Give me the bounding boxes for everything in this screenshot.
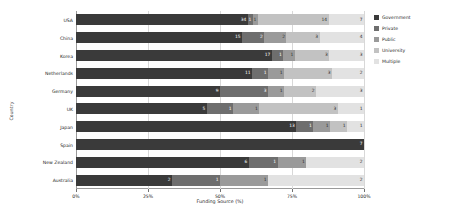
bar-segment-value: 7 [360, 18, 364, 22]
bar-segment: 3 [316, 86, 364, 97]
legend-label: Public [382, 37, 396, 42]
bar-segment: 3 [259, 103, 338, 114]
y-axis-tick-uk: UK [67, 106, 73, 111]
legend-label: Private [382, 26, 398, 31]
gridline [364, 11, 365, 189]
bar-segment-value: 34 [241, 18, 248, 22]
legend-label: Government [382, 15, 411, 20]
bar-segment: 2 [284, 86, 316, 97]
x-axis-tickmark [220, 189, 221, 192]
bar-segment-value: 15 [235, 35, 242, 39]
bar-segment: 9 [76, 86, 220, 97]
legend-swatch-icon [374, 26, 379, 31]
bar-row: 2112 [76, 175, 364, 186]
legend-swatch-icon [374, 59, 379, 64]
bar-segment: 7 [76, 139, 364, 150]
bar-row: 131111 [76, 121, 364, 132]
y-axis-tick-usa: USA [63, 17, 73, 22]
bar-row: 171133 [76, 50, 364, 61]
bar-segment: 4 [320, 32, 364, 43]
bar-segment-value: 4 [360, 35, 364, 39]
bar-segment: 14 [258, 14, 329, 25]
bar-segment: 1 [249, 157, 278, 168]
bar-segment: 17 [76, 50, 272, 61]
x-axis-tickmark [76, 189, 77, 192]
bar-segment: 1 [338, 103, 364, 114]
bar-segment: 1 [220, 175, 268, 186]
y-axis-tick-japan: Japan [60, 124, 73, 129]
legend-item-multiple[interactable]: Multiple [374, 56, 454, 67]
y-axis-tick-korea: Korea [60, 53, 73, 58]
bar-segment: 1 [233, 103, 259, 114]
y-axis-tick-new-zealand: New Zealand [43, 160, 73, 165]
bar-segment: 1 [272, 50, 284, 61]
bar-segment: 7 [329, 14, 364, 25]
bar-segment: 1 [330, 121, 347, 132]
bar-segment: 2 [268, 175, 364, 186]
y-axis-tick-australia: Australia [53, 178, 73, 183]
legend-item-government[interactable]: Government [374, 12, 454, 23]
bar-segment: 1 [268, 86, 284, 97]
bar-segment: 2 [306, 157, 364, 168]
bar-segment: 1 [278, 157, 307, 168]
bar-segment: 2 [332, 68, 364, 79]
bar-segment-value: 14 [322, 18, 329, 22]
y-axis-tick-germany: Germany [52, 89, 73, 94]
legend: GovernmentPrivatePublicUniversityMultipl… [374, 12, 454, 67]
bar-segment-value: 11 [245, 71, 252, 75]
bar-segment: 13 [76, 121, 296, 132]
legend-item-university[interactable]: University [374, 45, 454, 56]
bar-segment: 5 [76, 103, 207, 114]
bar-segment: 1 [268, 68, 284, 79]
y-axis-tick-spain: Spain [60, 142, 73, 147]
bar-segment: 2 [76, 175, 172, 186]
bar-segment-value: 17 [265, 53, 272, 57]
bar-segment: 3 [295, 50, 330, 61]
bar-segment-value: 2 [360, 71, 364, 75]
legend-item-public[interactable]: Public [374, 34, 454, 45]
bar-row: 3411147 [76, 14, 364, 25]
bar-segment: 1 [207, 103, 233, 114]
bar-segment-value: 13 [289, 124, 296, 128]
bar-row: 152234 [76, 32, 364, 43]
bar-segment-value: 2 [360, 178, 364, 182]
legend-label: Multiple [382, 59, 400, 64]
plot-area: 3411147152234171133111132931235113113111… [76, 11, 364, 189]
bar-segment: 2 [242, 32, 264, 43]
bar-segment-value: 1 [360, 124, 364, 128]
stacked-bar-chart: Country USAChinaKoreaNetherlandsGermanyU… [0, 0, 458, 221]
bar-segment-value: 1 [360, 107, 364, 111]
bar-segment-value: 3 [360, 89, 364, 93]
bar-row: 111132 [76, 68, 364, 79]
bar-segment: 3 [220, 86, 268, 97]
bar-segment: 3 [329, 50, 364, 61]
bar-row: 6112 [76, 157, 364, 168]
bar-segment: 34 [76, 14, 248, 25]
bar-segment: 2 [264, 32, 286, 43]
x-axis-tickmark [148, 189, 149, 192]
bar-segment: 1 [313, 121, 330, 132]
bar-row: 51131 [76, 103, 364, 114]
y-axis-tick-china: China [60, 35, 73, 40]
x-axis-tickmark [364, 189, 365, 192]
bar-segment: 11 [76, 68, 252, 79]
bar-segment: 3 [284, 68, 332, 79]
bar-row: 7 [76, 139, 364, 150]
bar-row: 93123 [76, 86, 364, 97]
bar-segment: 1 [172, 175, 220, 186]
bar-segment-value: 2 [360, 160, 364, 164]
bar-segment: 6 [76, 157, 249, 168]
y-axis-tick-labels: USAChinaKoreaNetherlandsGermanyUKJapanSp… [8, 11, 73, 189]
bar-segment: 1 [347, 121, 364, 132]
y-axis-tick-netherlands: Netherlands [45, 71, 73, 76]
bar-segment-value: 3 [360, 53, 364, 57]
x-axis-tickmark [292, 189, 293, 192]
bar-segment: 15 [76, 32, 242, 43]
x-axis-title: Funding Source (%) [76, 199, 364, 204]
bar-segment: 1 [283, 50, 295, 61]
legend-item-private[interactable]: Private [374, 23, 454, 34]
bar-segment-value: 7 [360, 142, 364, 146]
bar-segment: 1 [252, 68, 268, 79]
bar-segment: 1 [296, 121, 313, 132]
legend-swatch-icon [374, 15, 379, 20]
